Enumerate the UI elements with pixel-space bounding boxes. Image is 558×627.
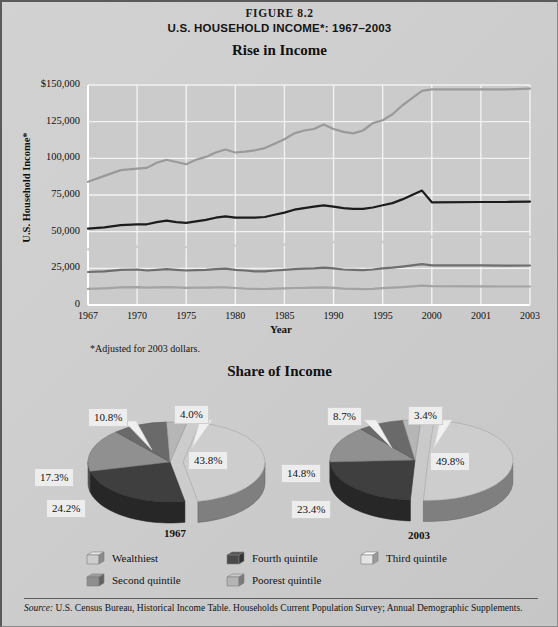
x-axis-title: Year xyxy=(2,323,558,335)
x-tick-2003: 2003 xyxy=(508,310,552,321)
line-chart: U.S. Household Income* 025,00050,00075,0… xyxy=(2,62,558,352)
pie-callout-1967-fourth-quintile: 24.2% xyxy=(46,499,86,518)
legend-label: Third quintile xyxy=(386,552,447,564)
pie-callout-1967-second-quintile: 10.8% xyxy=(88,408,128,427)
legend-swatch-icon xyxy=(86,573,105,587)
legend-swatch-icon xyxy=(360,551,379,565)
legend-item-fourth-quintile: Fourth quintile xyxy=(226,551,318,565)
pie-callout-1967-third-quintile: 17.3% xyxy=(34,468,74,487)
x-tick-1967: 1967 xyxy=(66,310,110,321)
pie-callout-2003-wealthiest: 49.8% xyxy=(430,452,470,471)
pie-callout-1967-poorest-quintile: 4.0% xyxy=(174,405,209,424)
figure-title: U.S. HOUSEHOLD INCOME*: 1967–2003 xyxy=(2,22,557,34)
pie-slice-poorest-quintile xyxy=(167,422,187,462)
pie-section-title: Share of Income xyxy=(2,363,557,380)
x-tick-1970: 1970 xyxy=(115,310,159,321)
pie-charts xyxy=(2,382,558,547)
x-tick-1985: 1985 xyxy=(262,310,306,321)
legend-item-third-quintile: Third quintile xyxy=(360,551,447,565)
y-tick-150000: $150,000 xyxy=(16,78,80,89)
pie-callout-2003-second-quintile: 8.7% xyxy=(327,407,362,426)
x-tick-1990: 1990 xyxy=(312,310,356,321)
x-tick-1975: 1975 xyxy=(164,310,208,321)
source-text: U.S. Census Bureau, Historical Income Ta… xyxy=(53,603,522,613)
figure-number: FIGURE 8.2 xyxy=(2,7,557,19)
y-tick-25000: 25,000 xyxy=(16,261,80,272)
legend-item-second-quintile: Second quintile xyxy=(86,573,181,587)
legend-item-wealthiest: Wealthiest xyxy=(86,551,158,565)
pie1-year-label: 1967 xyxy=(115,527,235,539)
pie-callout-2003-third-quintile: 14.8% xyxy=(281,464,321,483)
line-plot-area xyxy=(2,62,558,352)
line-chart-title: Rise in Income xyxy=(2,42,557,59)
pie-2003 xyxy=(330,420,513,521)
source-divider xyxy=(24,598,538,599)
pie-1967 xyxy=(88,422,265,523)
legend-label: Fourth quintile xyxy=(252,552,318,564)
legend: WealthiestFourth quintileThird quintileS… xyxy=(86,551,486,593)
y-tick-75000: 75,000 xyxy=(16,188,80,199)
legend-label: Second quintile xyxy=(112,574,181,586)
pie2-year-label: 2003 xyxy=(359,529,479,541)
legend-label: Poorest quintile xyxy=(252,574,321,586)
chart-footnote: *Adjusted for 2003 dollars. xyxy=(90,343,200,354)
y-tick-100000: 100,000 xyxy=(16,151,80,162)
source-note: Source: U.S. Census Bureau, Historical I… xyxy=(24,603,545,613)
y-tick-125000: 125,000 xyxy=(16,115,80,126)
legend-swatch-icon xyxy=(226,573,245,587)
figure-page: FIGURE 8.2 U.S. HOUSEHOLD INCOME*: 1967–… xyxy=(0,0,558,627)
pie-callout-2003-poorest-quintile: 3.4% xyxy=(408,406,443,425)
y-tick-50000: 50,000 xyxy=(16,225,80,236)
y-tick-0: 0 xyxy=(16,298,80,309)
x-tick-1980: 1980 xyxy=(213,310,257,321)
x-tick-2000: 2000 xyxy=(410,310,454,321)
legend-swatch-icon xyxy=(86,551,105,565)
legend-item-poorest-quintile: Poorest quintile xyxy=(226,573,321,587)
source-prefix: Source: xyxy=(24,603,53,613)
x-tick-2001: 2001 xyxy=(459,310,503,321)
pie-callout-2003-fourth-quintile: 23.4% xyxy=(291,500,331,519)
legend-swatch-icon xyxy=(226,551,245,565)
legend-label: Wealthiest xyxy=(112,552,158,564)
pie-callout-1967-wealthiest: 43.8% xyxy=(188,451,228,470)
x-tick-1995: 1995 xyxy=(361,310,405,321)
